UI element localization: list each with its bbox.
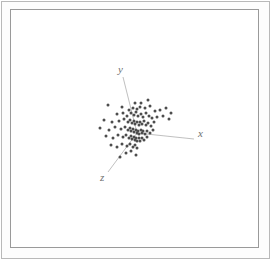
data-point [135,137,138,140]
data-point [123,118,126,121]
scatter-plot-area: xyz [0,0,273,262]
data-point [150,125,153,128]
data-point [124,126,127,129]
data-point [120,128,123,131]
data-point [159,109,162,112]
data-point [136,140,139,143]
data-point [143,139,146,142]
data-point [108,129,111,132]
figure-container: xyz [0,0,273,262]
data-point [125,152,128,155]
data-point [146,136,149,139]
data-point [118,120,121,123]
data-point [121,106,124,109]
data-point [142,116,145,119]
data-point [119,156,122,159]
data-point [105,135,108,138]
data-point [140,102,143,105]
data-point [134,144,137,147]
data-point [116,113,119,116]
data-point [141,123,144,126]
data-point [129,127,132,130]
scatter-plot-svg: xyz [0,0,273,262]
data-point [132,107,135,110]
data-point [137,130,140,133]
data-point [114,126,117,129]
data-point [146,130,149,133]
data-point [112,137,115,140]
data-point [138,124,141,127]
data-point [130,150,133,153]
data-point [143,120,146,123]
data-point [145,112,148,115]
data-point [136,108,139,111]
data-point [122,112,125,115]
data-point [138,133,141,136]
data-point [137,115,140,118]
data-point [121,143,124,146]
axis-label-y: y [117,63,123,75]
data-point [125,134,128,137]
data-point [136,147,139,150]
data-point [111,121,114,124]
data-point [122,136,125,139]
data-point [156,116,159,119]
data-point [142,130,145,133]
data-point [135,111,138,114]
data-point [144,133,147,136]
data-point [132,128,135,131]
data-point [135,154,138,157]
data-point [130,112,133,115]
data-point [144,107,147,110]
axis-label-z: z [99,171,105,183]
data-point [99,127,102,130]
data-point [103,119,106,122]
data-point [170,112,173,115]
data-point [152,129,155,132]
data-point [149,132,152,135]
data-point [162,115,165,118]
data-point [133,120,136,123]
data-point [139,140,142,143]
data-point [165,107,168,110]
data-point [107,104,110,107]
data-point [133,114,136,117]
data-point [154,110,157,113]
axis-label-x: x [197,127,203,139]
data-point [116,146,119,149]
data-point [129,119,132,122]
data-point [117,134,120,137]
data-point [148,115,151,118]
data-point [139,106,142,109]
axis-labels-group: xyz [99,63,203,183]
data-point [129,143,132,146]
data-point [126,145,129,148]
data-point [126,115,129,118]
data-point [138,137,141,140]
data-point [134,102,137,105]
data-point [110,144,113,147]
data-point [140,113,143,116]
data-point [136,121,139,124]
data-point [151,117,154,120]
data-point [168,118,171,121]
data-point [147,122,150,125]
data-point [147,99,150,102]
data-point [128,109,131,112]
data-point [149,105,152,108]
data-point [153,121,156,124]
data-point [130,135,133,138]
